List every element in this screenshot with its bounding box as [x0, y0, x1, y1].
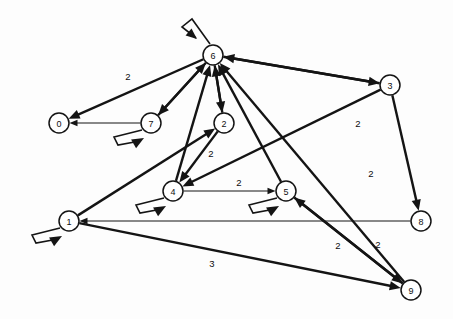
- graph-node-0[interactable]: 0: [49, 113, 69, 133]
- graph-canvas: 0123456789 22322222: [0, 0, 453, 319]
- self-loop-arrowhead-5: [266, 206, 279, 216]
- edge-9-to-6: [224, 68, 405, 282]
- arrowhead-1-to-9: [389, 281, 401, 290]
- self-loop-arrowhead-6: [186, 28, 197, 39]
- edge-weight-1-9: 3: [209, 258, 214, 269]
- node-label-9: 9: [408, 286, 413, 296]
- edge-weight-4-5: 2: [236, 177, 241, 188]
- graph-node-2[interactable]: 2: [214, 113, 234, 133]
- arrowhead-4-to-5: [268, 188, 276, 195]
- graph-node-9[interactable]: 9: [401, 280, 421, 300]
- node-label-6: 6: [210, 51, 215, 61]
- edge-3-to-6: [229, 58, 379, 83]
- node-label-1: 1: [66, 217, 71, 227]
- edge-weight-9-6: 2: [355, 118, 360, 129]
- graph-node-5[interactable]: 5: [276, 181, 296, 201]
- node-label-5: 5: [283, 187, 288, 197]
- node-label-3: 3: [387, 81, 392, 91]
- edge-weight-9-5: 2: [375, 239, 380, 250]
- arrowhead-7-to-0: [70, 120, 78, 127]
- node-label-0: 0: [56, 119, 61, 129]
- node-label-7: 7: [148, 119, 153, 129]
- self-loop-arrowhead-4: [153, 206, 166, 216]
- arrowhead-3-to-6: [223, 54, 235, 63]
- self-loop-arrowhead-7: [131, 138, 144, 148]
- graph-node-7[interactable]: 7: [141, 113, 161, 133]
- self-loop-6: [182, 19, 210, 44]
- graph-node-8[interactable]: 8: [411, 211, 431, 231]
- node-label-2: 2: [221, 119, 226, 129]
- self-loop-arrowhead-1: [49, 236, 62, 246]
- graph-diagram: 0123456789 22322222: [0, 0, 453, 319]
- edge-weight-5-9: 2: [335, 240, 340, 251]
- edge-weights-layer: 22322222: [125, 71, 380, 269]
- edge-1-to-9: [79, 223, 394, 287]
- graph-node-1[interactable]: 1: [59, 211, 79, 231]
- node-label-4: 4: [170, 187, 175, 197]
- edge-weight-3-8: 2: [368, 168, 373, 179]
- graph-node-4[interactable]: 4: [163, 181, 183, 201]
- graph-node-3[interactable]: 3: [380, 75, 400, 95]
- edge-weight-6-0: 2: [125, 71, 130, 82]
- edge-weight-2-4: 2: [208, 148, 213, 159]
- edge-3-to-8: [392, 95, 417, 205]
- arrowhead-3-to-8: [412, 199, 421, 211]
- edge-7-to-6: [158, 67, 202, 115]
- graph-node-6[interactable]: 6: [203, 45, 223, 65]
- node-label-8: 8: [418, 217, 423, 227]
